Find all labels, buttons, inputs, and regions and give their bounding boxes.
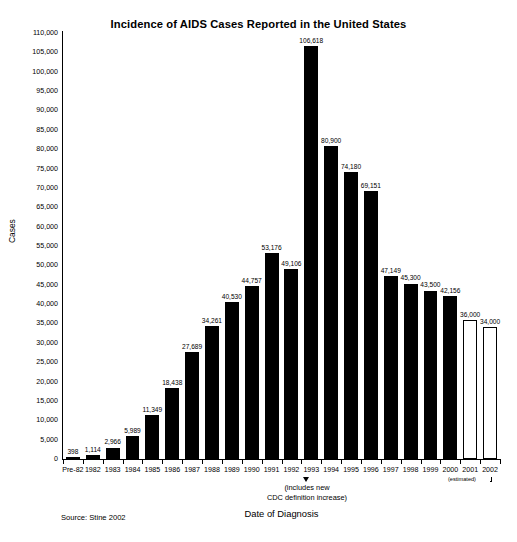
bar[interactable] [463, 320, 477, 459]
cdc-definition-note: (includes new CDC definition increase) [232, 483, 382, 503]
y-tick-label: 85,000 [36, 126, 58, 134]
bar[interactable] [344, 172, 358, 459]
x-tick-label: 1984 [125, 466, 141, 474]
x-tick [301, 460, 302, 464]
bar-slot: 69,151 [364, 33, 378, 459]
bar-slot: 36,000 [463, 33, 477, 459]
y-tick-label: 40,000 [36, 300, 58, 308]
bar[interactable] [66, 457, 80, 459]
x-tick [83, 460, 84, 464]
x-tick-label: 1985 [144, 466, 160, 474]
bar-value-label: 47,149 [381, 268, 401, 275]
x-tick [381, 460, 382, 464]
bar-value-label: 80,900 [321, 138, 341, 145]
bar[interactable] [145, 415, 159, 459]
x-tick-label: 1996 [363, 466, 379, 474]
y-tick-label: 15,000 [36, 397, 58, 405]
x-tick-label: 1994 [323, 466, 339, 474]
bar-value-label: 49,106 [281, 261, 301, 268]
bar-slot: 34,000 [483, 33, 497, 459]
bar[interactable] [384, 276, 398, 459]
bar[interactable] [126, 436, 140, 459]
x-tick [480, 460, 481, 464]
y-axis-tick-labels: 110,000105,000100,00095,00090,00085,0008… [0, 0, 58, 542]
bar[interactable] [86, 455, 100, 459]
y-tick-label: 45,000 [36, 281, 58, 289]
bar[interactable] [185, 352, 199, 459]
bar[interactable] [225, 302, 239, 459]
y-tick-label: 80,000 [36, 145, 58, 153]
bar-slot: 106,618 [304, 33, 318, 459]
y-tick-label: 110,000 [33, 29, 58, 37]
bar-value-label: 27,689 [182, 344, 202, 351]
cdc-definition-arrow-icon [303, 477, 309, 482]
x-tick [242, 460, 243, 464]
bar-slot: 1,114 [86, 33, 100, 459]
bar[interactable] [245, 286, 259, 459]
x-tick-label: 1993 [303, 466, 319, 474]
estimated-label: (estimated) [434, 476, 490, 482]
x-tick [500, 460, 501, 464]
bar[interactable] [483, 327, 497, 459]
bar[interactable] [205, 326, 219, 459]
bar-value-label: 69,151 [361, 183, 381, 190]
bar[interactable] [304, 46, 318, 459]
bar-slot: 34,261 [205, 33, 219, 459]
bar[interactable] [165, 388, 179, 459]
bar-value-label: 44,757 [242, 278, 262, 285]
x-tick-label: 2001 [462, 466, 478, 474]
y-tick-label: 35,000 [36, 319, 58, 327]
x-tick [262, 460, 263, 464]
x-tick-label: 1988 [204, 466, 220, 474]
x-tick [182, 460, 183, 464]
bar-slot: 44,757 [245, 33, 259, 459]
bar[interactable] [284, 269, 298, 459]
bar-value-label: 34,000 [480, 319, 500, 326]
x-tick-label: 1982 [85, 466, 101, 474]
x-tick [123, 460, 124, 464]
x-tick [440, 460, 441, 464]
bar-slot: 80,900 [324, 33, 338, 459]
x-tick [142, 460, 143, 464]
aids-incidence-bar-chart: Incidence of AIDS Cases Reported in the … [0, 0, 517, 542]
y-tick-label: 75,000 [36, 165, 58, 173]
bar-value-label: 1,114 [85, 447, 101, 454]
y-tick-label: 90,000 [36, 106, 58, 114]
y-tick-label: 0 [54, 455, 58, 463]
source-note: Source: Stine 2002 [61, 513, 126, 522]
bar-value-label: 18,438 [162, 380, 182, 387]
x-tick [421, 460, 422, 464]
y-tick-label: 70,000 [36, 184, 58, 192]
x-tick-label: 1992 [284, 466, 300, 474]
bar-value-label: 34,261 [202, 318, 222, 325]
x-tick-label: 1997 [383, 466, 399, 474]
bar[interactable] [443, 296, 457, 459]
x-axis-title: Date of Diagnosis [63, 508, 500, 519]
y-tick-label: 50,000 [36, 261, 58, 269]
bar-slot: 42,156 [443, 33, 457, 459]
bar[interactable] [106, 448, 120, 459]
bar-slot: 398 [66, 33, 80, 459]
y-tick-label: 20,000 [36, 378, 58, 386]
chart-title: Incidence of AIDS Cases Reported in the … [0, 18, 517, 30]
bar-value-label: 42,156 [440, 288, 460, 295]
y-tick-label: 100,000 [32, 68, 58, 76]
y-tick-label: 55,000 [36, 242, 58, 250]
bar-value-label: 43,500 [420, 282, 440, 289]
bar-slot: 53,176 [265, 33, 279, 459]
y-tick-label: 30,000 [36, 339, 58, 347]
x-tick [63, 460, 64, 464]
x-tick [341, 460, 342, 464]
x-tick [282, 460, 283, 464]
bar[interactable] [364, 191, 378, 459]
bar[interactable] [404, 284, 418, 459]
y-tick-label: 60,000 [36, 223, 58, 231]
x-tick [162, 460, 163, 464]
bar[interactable] [424, 291, 438, 459]
bar-value-label: 2,966 [104, 439, 121, 446]
bar[interactable] [324, 146, 338, 459]
bar[interactable] [265, 253, 279, 459]
bar-slot: 47,149 [384, 33, 398, 459]
x-tick [222, 460, 223, 464]
bar-value-label: 36,000 [460, 312, 480, 319]
